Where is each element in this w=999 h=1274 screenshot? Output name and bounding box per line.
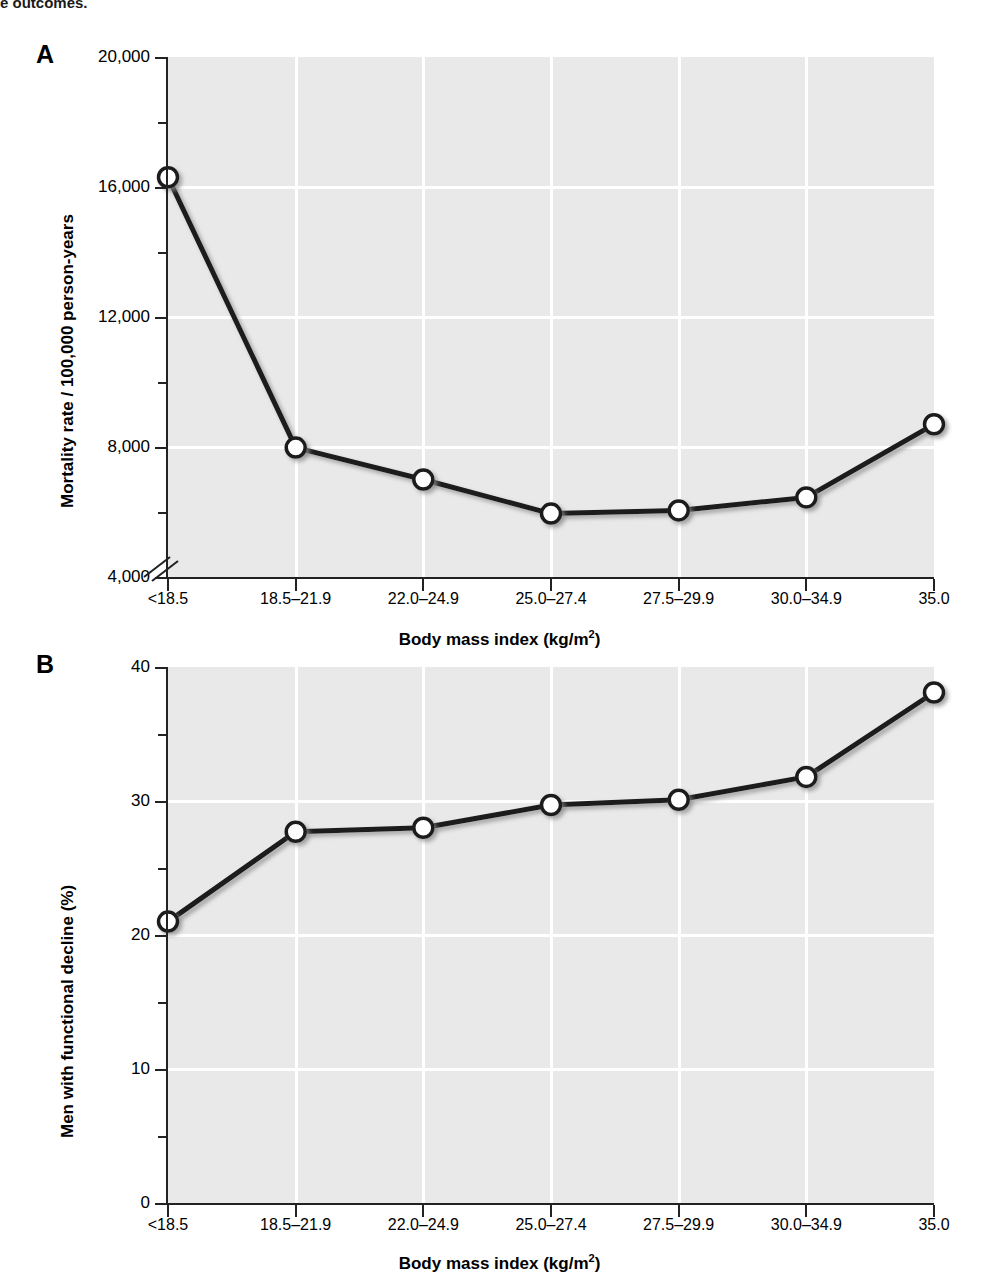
gridline-horizontal bbox=[168, 1068, 934, 1071]
y-tick-major bbox=[155, 187, 166, 189]
y-tick-major bbox=[155, 317, 166, 319]
clipped-caption-fragment: e outcomes. bbox=[0, 0, 300, 16]
y-tick-major bbox=[155, 1069, 166, 1071]
y-tick-label: 8,000 bbox=[48, 437, 150, 457]
axis-break-marker bbox=[140, 553, 180, 587]
y-tick-major bbox=[155, 667, 166, 669]
x-tick-label: 30.0–34.9 bbox=[771, 1216, 842, 1234]
y-tick-minor bbox=[158, 1136, 166, 1138]
y-tick-label: 20,000 bbox=[48, 47, 150, 67]
y-tick-label: 12,000 bbox=[48, 307, 150, 327]
x-tick-label: 27.5–29.9 bbox=[643, 1216, 714, 1234]
y-tick-minor bbox=[158, 1002, 166, 1004]
y-tick-major bbox=[155, 1203, 166, 1205]
gridline-horizontal bbox=[168, 934, 934, 937]
x-tick-label: 30.0–34.9 bbox=[771, 590, 842, 608]
x-axis-title: Body mass index (kg/m2) bbox=[0, 1252, 999, 1274]
y-tick-label: 20 bbox=[48, 925, 150, 945]
plot-area-b bbox=[168, 667, 934, 1203]
gridline-horizontal bbox=[168, 316, 934, 319]
y-axis-line bbox=[166, 57, 168, 577]
y-tick-minor bbox=[158, 382, 166, 384]
y-tick-minor bbox=[158, 512, 166, 514]
y-tick-major bbox=[155, 447, 166, 449]
y-tick-minor bbox=[158, 734, 166, 736]
gridline-horizontal bbox=[168, 446, 934, 449]
y-tick-label: 40 bbox=[48, 657, 150, 677]
y-tick-minor bbox=[158, 122, 166, 124]
x-tick-label: 18.5–21.9 bbox=[260, 1216, 331, 1234]
x-tick-label: <18.5 bbox=[148, 590, 188, 608]
x-tick-label: 22.0–24.9 bbox=[388, 1216, 459, 1234]
x-tick-label: 35.0 bbox=[918, 590, 949, 608]
data-point-marker bbox=[159, 912, 178, 931]
y-tick-label: 0 bbox=[48, 1193, 150, 1213]
y-tick-label: 16,000 bbox=[48, 177, 150, 197]
plot-area-a bbox=[168, 57, 934, 577]
y-tick-major bbox=[155, 801, 166, 803]
x-tick-label: 18.5–21.9 bbox=[260, 590, 331, 608]
y-axis-line bbox=[166, 667, 168, 1203]
y-tick-minor bbox=[158, 252, 166, 254]
panel-a-mortality: AMortality rate / 100,000 person-years4,… bbox=[0, 38, 999, 638]
data-point-marker bbox=[925, 683, 944, 702]
x-tick-label: <18.5 bbox=[148, 1216, 188, 1234]
panel-b-functional-decline: BMen with functional decline (%)01020304… bbox=[0, 648, 999, 1274]
x-tick-label: 35.0 bbox=[918, 1216, 949, 1234]
x-axis-title-main: Body mass index (kg/m bbox=[399, 630, 589, 649]
y-tick-major bbox=[155, 935, 166, 937]
gridline-horizontal bbox=[168, 800, 934, 803]
y-tick-label: 30 bbox=[48, 791, 150, 811]
y-tick-major bbox=[155, 57, 166, 59]
y-tick-minor bbox=[158, 868, 166, 870]
y-axis-title: Mortality rate / 100,000 person-years bbox=[58, 214, 78, 508]
x-axis-title-tail: ) bbox=[595, 630, 601, 649]
x-axis-title-tail: ) bbox=[595, 1254, 601, 1273]
x-axis-title: Body mass index (kg/m2) bbox=[0, 628, 999, 650]
data-point-marker bbox=[925, 415, 944, 434]
y-tick-label: 10 bbox=[48, 1059, 150, 1079]
x-tick-label: 25.0–27.4 bbox=[515, 1216, 586, 1234]
x-tick-label: 22.0–24.9 bbox=[388, 590, 459, 608]
gridline-horizontal bbox=[168, 186, 934, 189]
y-tick-label: 4,000 bbox=[48, 567, 150, 587]
x-axis-title-main: Body mass index (kg/m bbox=[399, 1254, 589, 1273]
y-axis-title: Men with functional decline (%) bbox=[58, 885, 78, 1138]
data-point-marker bbox=[159, 168, 178, 187]
x-tick-label: 27.5–29.9 bbox=[643, 590, 714, 608]
x-tick-label: 25.0–27.4 bbox=[515, 590, 586, 608]
